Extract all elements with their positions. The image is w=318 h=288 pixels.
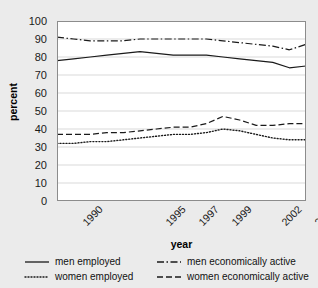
plot-svg	[57, 21, 306, 201]
x-tick-label: 1990	[80, 203, 105, 228]
chart-legend: men employedmen economically activewomen…	[24, 254, 300, 284]
x-tick-label: 1997	[196, 203, 221, 228]
series-line-women-employed	[57, 129, 306, 143]
x-tick-label: 1995	[163, 203, 188, 228]
legend-label: women economically active	[187, 271, 309, 282]
legend-label: women employed	[55, 271, 133, 282]
legend-item: women economically active	[156, 271, 300, 282]
y-tick-label: 100	[1, 16, 47, 27]
x-tick-label: 2002	[279, 203, 304, 228]
legend-key-solid-icon	[24, 257, 50, 267]
plot-area	[57, 21, 306, 201]
chart-figure: 1009080706050403020100 percent 199019951…	[0, 0, 318, 288]
series-line-women-economically-active	[57, 116, 306, 134]
legend-item: men economically active	[156, 256, 300, 267]
y-tick-label: 10	[1, 178, 47, 189]
y-tick-label: 0	[1, 196, 47, 207]
series-line-men-employed	[57, 52, 306, 68]
legend-key-dotted-icon	[24, 272, 50, 282]
x-axis-tick-labels: 199019951997199920022004	[57, 203, 306, 233]
legend-key-dashed-icon	[156, 272, 182, 282]
y-tick-label: 20	[1, 160, 47, 171]
legend-label: men employed	[55, 256, 121, 267]
y-axis-title: percent	[7, 59, 19, 145]
legend-key-dash-dot-icon	[156, 257, 182, 267]
x-axis-title: year	[57, 238, 306, 250]
legend-item: women employed	[24, 271, 156, 282]
x-tick-label: 1999	[229, 203, 254, 228]
y-tick-label: 90	[1, 34, 47, 45]
legend-label: men economically active	[187, 256, 296, 267]
legend-item: men employed	[24, 256, 156, 267]
x-tick-label: 2004	[312, 203, 318, 228]
series-lines	[57, 37, 306, 143]
